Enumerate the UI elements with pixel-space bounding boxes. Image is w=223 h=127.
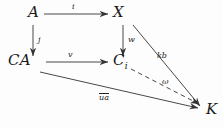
edge-label-j: j xyxy=(38,36,40,44)
node-Ci-subscript: i xyxy=(125,61,128,71)
arrow-Ci-to-K-dashed xyxy=(131,69,199,104)
edge-label-v: v xyxy=(68,51,73,59)
node-X: X xyxy=(113,5,124,20)
node-A: A xyxy=(28,5,39,20)
arrow-CA-to-K xyxy=(40,72,198,108)
arrow-X-to-K xyxy=(133,25,200,106)
node-Ci: Ci xyxy=(113,53,128,71)
node-K: K xyxy=(206,102,218,117)
edge-label-omega: ω xyxy=(162,78,169,86)
node-CA: CA xyxy=(8,53,31,68)
edge-label-ua-overline: ua xyxy=(99,93,109,102)
edge-label-kb: kb xyxy=(157,52,167,60)
edge-label-w: w xyxy=(128,36,135,44)
edge-label-i: i xyxy=(72,3,75,11)
commutative-diagram: A X CA Ci K i j w v kb ω ua xyxy=(0,0,223,127)
